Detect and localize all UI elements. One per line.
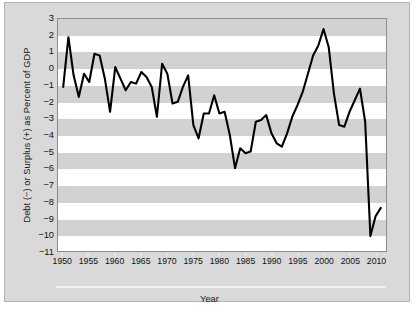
y-axis-tick-label: 2 <box>14 30 54 40</box>
y-axis-tick-label: −4 <box>14 130 54 140</box>
x-axis-tick-label: 2005 <box>341 256 360 266</box>
y-axis-tick-label: 1 <box>14 46 54 56</box>
y-axis-tick-label: 3 <box>14 13 54 23</box>
y-axis-tick-label: −8 <box>14 197 54 207</box>
x-axis-tick-label: 1990 <box>262 256 281 266</box>
y-axis-tick-label: −1 <box>14 80 54 90</box>
y-axis-tick-label: −3 <box>14 113 54 123</box>
x-axis-tick-labels: 1950195519601965197019751980198519901995… <box>57 256 387 270</box>
x-axis-tick-label: 1985 <box>236 256 255 266</box>
y-axis-tick-label: −11 <box>14 247 54 257</box>
x-axis-tick-label: 1960 <box>105 256 124 266</box>
y-axis-tick-label: −5 <box>14 147 54 157</box>
x-axis-tick-label: 1980 <box>210 256 229 266</box>
x-axis-tick-label: 2010 <box>367 256 386 266</box>
y-axis-tick-labels: 3210−1−2−3−4−5−6−7−8−9−10−11 <box>10 18 54 252</box>
y-axis-tick-label: −9 <box>14 214 54 224</box>
data-line-series <box>58 19 386 251</box>
x-axis-title: Year <box>0 293 419 304</box>
y-axis-tick-label: −6 <box>14 163 54 173</box>
panel-divider-rule <box>56 286 386 288</box>
y-axis-tick-label: 0 <box>14 63 54 73</box>
plot-area <box>57 18 387 252</box>
x-axis-tick-label: 1965 <box>131 256 150 266</box>
chart-figure: Debt (−) or Surplus (+) as Percent of GD… <box>0 0 419 328</box>
y-axis-tick-label: −10 <box>14 230 54 240</box>
x-axis-tick-label: 1970 <box>157 256 176 266</box>
x-axis-tick-label: 1975 <box>184 256 203 266</box>
y-axis-tick-label: −2 <box>14 97 54 107</box>
x-axis-tick-label: 2000 <box>314 256 333 266</box>
x-axis-tick-label: 1995 <box>288 256 307 266</box>
x-axis-tick-label: 1950 <box>53 256 72 266</box>
x-axis-tick-label: 1955 <box>79 256 98 266</box>
y-axis-tick-label: −7 <box>14 180 54 190</box>
